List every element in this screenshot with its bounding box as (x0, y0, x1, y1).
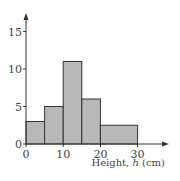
x-axis-title: Height, h (cm) (91, 157, 165, 168)
x-axis-arrow-icon (162, 142, 169, 147)
y-tick-label: 0 (15, 138, 22, 151)
x-tick-label: 10 (56, 148, 70, 161)
y-tick-label: 10 (8, 63, 22, 76)
y-tick-label: 5 (15, 101, 22, 114)
histogram-chart: 051015 0102030 Height, h (cm) (0, 0, 180, 181)
histogram-bar (26, 122, 45, 145)
histogram-bar (82, 99, 101, 144)
x-tick-label: 0 (23, 148, 30, 161)
histogram-bar (100, 125, 137, 144)
y-ticks: 051015 (8, 26, 26, 152)
y-axis-arrow-icon (24, 13, 29, 20)
y-tick-label: 15 (8, 26, 22, 39)
histogram-bar (45, 107, 64, 145)
histogram-bar (63, 62, 82, 145)
histogram-bars (26, 62, 138, 145)
